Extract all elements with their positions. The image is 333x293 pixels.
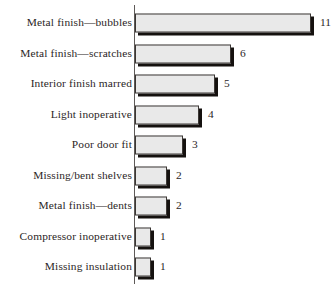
bar-category-label: Metal finish—scratches (20, 48, 132, 59)
bar-fill (135, 14, 311, 33)
bar-fill (135, 136, 183, 155)
bar-value-label: 11 (320, 18, 331, 29)
bar-category-label: Poor door fit (72, 140, 132, 151)
bar-fill (135, 75, 215, 94)
bar-row: Metal finish—dents2 (0, 191, 333, 222)
bar-value-label: 4 (208, 109, 214, 120)
bar-category-label: Missing/bent shelves (33, 170, 132, 181)
bar-row: Light inoperative4 (0, 100, 333, 131)
bar-category-label: Missing insulation (45, 262, 132, 273)
bar (135, 227, 151, 246)
bar-value-label: 6 (240, 48, 246, 59)
bar-row: Metal finish—bubbles11 (0, 8, 333, 39)
bar-row: Interior finish marred5 (0, 69, 333, 100)
bar-category-label: Metal finish—bubbles (27, 18, 132, 29)
bar-fill (135, 166, 167, 185)
bar-category-label: Light inoperative (51, 109, 132, 120)
bar (135, 166, 167, 185)
bar (135, 14, 311, 33)
bar-value-label: 3 (192, 140, 198, 151)
bar (135, 197, 167, 216)
bar-value-label: 1 (160, 231, 166, 242)
bar-category-label: Compressor inoperative (20, 231, 132, 242)
bar-row: Missing insulation1 (0, 252, 333, 283)
bar-value-label: 2 (176, 170, 182, 181)
bar-chart: Metal finish—bubbles11Metal finish—scrat… (0, 0, 333, 293)
bar (135, 136, 183, 155)
bar-fill (135, 105, 199, 124)
bar-fill (135, 258, 151, 277)
bar-row: Compressor inoperative1 (0, 222, 333, 253)
bar (135, 105, 199, 124)
bar (135, 258, 151, 277)
bar-row: Metal finish—scratches6 (0, 39, 333, 70)
bar-row: Poor door fit3 (0, 130, 333, 161)
bar (135, 75, 215, 94)
bar-value-label: 1 (160, 262, 166, 273)
bar-value-label: 5 (224, 79, 230, 90)
bar-category-label: Metal finish—dents (39, 201, 133, 212)
bar-row: Missing/bent shelves2 (0, 161, 333, 192)
bar (135, 44, 231, 63)
bar-category-label: Interior finish marred (31, 79, 132, 90)
plot-area: Metal finish—bubbles11Metal finish—scrat… (0, 0, 333, 293)
bar-value-label: 2 (176, 201, 182, 212)
bar-fill (135, 197, 167, 216)
bar-fill (135, 227, 151, 246)
bar-fill (135, 44, 231, 63)
